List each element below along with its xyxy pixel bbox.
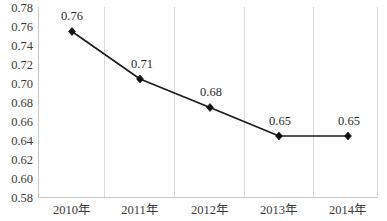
x-tick-label: 2011年: [121, 203, 159, 217]
y-tick-label: 0.64: [11, 134, 34, 148]
line-chart-figure: 0.78 0.76 0.74 0.72 0.70 0.68 0.66 0.64 …: [0, 0, 387, 221]
y-tick-label: 0.72: [11, 58, 33, 72]
y-tick-label: 0.78: [11, 1, 33, 15]
data-point-label: 0.65: [269, 114, 291, 128]
y-tick-label: 0.62: [11, 153, 33, 167]
plot-area-background: [38, 7, 378, 197]
y-tick-label: 0.58: [11, 191, 33, 205]
y-tick-label: 0.70: [11, 77, 33, 91]
y-tick-label: 0.66: [11, 115, 33, 129]
y-tick-label: 0.76: [11, 20, 33, 34]
y-tick-label: 0.60: [11, 172, 33, 186]
y-axis-tick-labels: 0.78 0.76 0.74 0.72 0.70 0.68 0.66 0.64 …: [11, 1, 34, 205]
data-point-label: 0.76: [61, 9, 83, 23]
x-tick-label: 2013年: [260, 203, 298, 217]
x-tick-label: 2010年: [53, 203, 91, 217]
x-tick-label: 2012年: [191, 203, 229, 217]
data-point-label: 0.68: [200, 85, 222, 99]
data-point-label: 0.71: [131, 57, 153, 71]
x-tick-label: 2014年: [329, 203, 367, 217]
chart-canvas: 0.78 0.76 0.74 0.72 0.70 0.68 0.66 0.64 …: [0, 0, 387, 221]
y-tick-label: 0.74: [11, 39, 34, 53]
x-axis-tick-labels: 2010年 2011年 2012年 2013年 2014年: [53, 203, 367, 217]
y-tick-label: 0.68: [11, 96, 33, 110]
data-point-label: 0.65: [338, 114, 360, 128]
